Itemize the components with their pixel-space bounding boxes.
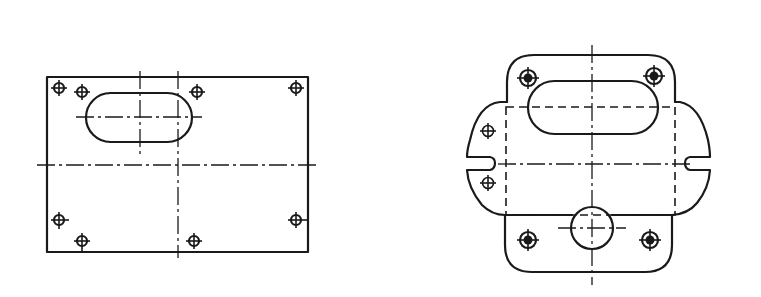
hole-icon — [517, 67, 539, 89]
right-large-holes — [517, 65, 665, 251]
hole-icon — [480, 123, 496, 139]
drawing-canvas — [0, 0, 761, 297]
hole-icon — [186, 233, 202, 249]
hole-icon — [639, 229, 661, 251]
right-view — [467, 45, 710, 285]
hole-icon — [74, 233, 90, 252]
left-view — [37, 71, 318, 258]
hole-icon — [288, 212, 308, 228]
right-hidden-rectangle — [506, 107, 675, 215]
hole-icon — [643, 65, 665, 87]
hole-icon — [51, 80, 67, 96]
right-left-wing-outline — [467, 102, 507, 215]
hole-icon — [51, 212, 69, 229]
right-right-wing-outline — [672, 102, 710, 215]
hole-icon — [189, 84, 205, 100]
hole-icon — [517, 229, 539, 251]
hole-icon — [288, 80, 304, 96]
hole-icon — [74, 84, 90, 100]
hole-icon — [480, 175, 496, 191]
